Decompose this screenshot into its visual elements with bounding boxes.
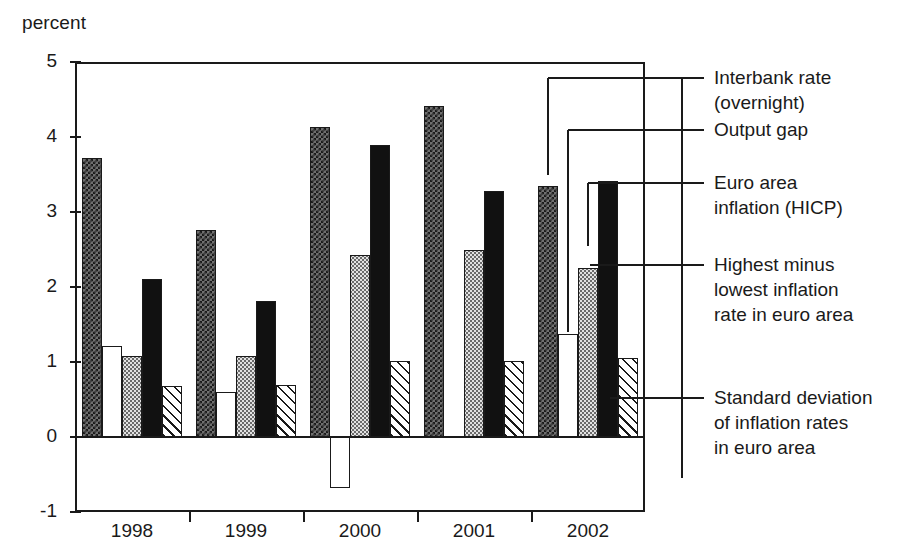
legend-item-3-line-1: lowest inflation	[714, 277, 910, 302]
bar-2002-series-2	[578, 268, 598, 437]
bar-2002-series-1	[558, 334, 578, 437]
bar-2000-series-0	[310, 127, 330, 438]
bar-2001-series-2	[464, 250, 484, 437]
y-axis-tick-label: 0	[13, 425, 57, 447]
legend-item-0-line-1: (overnight)	[714, 90, 910, 115]
leader-stub-0	[682, 77, 704, 79]
y-axis-unit-label: percent	[22, 12, 86, 34]
bar-1999-series-2	[236, 356, 256, 437]
leader-horizontal-1	[568, 129, 682, 131]
bar-1998-series-3	[142, 279, 162, 437]
bar-1998-series-0	[82, 158, 102, 437]
leader-riser-1	[567, 130, 569, 332]
bar-1998-series-1	[102, 346, 122, 437]
bars-layer	[75, 62, 645, 512]
x-axis-label-1998: 1998	[72, 520, 192, 542]
bar-1999-series-0	[196, 230, 216, 437]
y-axis-tick-label: 1	[13, 350, 57, 372]
bar-1999-series-1	[216, 392, 236, 437]
legend-item-0-line-0: Interbank rate	[714, 65, 910, 90]
bar-2002-series-0	[538, 186, 558, 437]
bar-2000-series-3	[370, 145, 390, 438]
bar-2000-series-2	[350, 255, 370, 437]
bar-1999-series-3	[256, 301, 276, 438]
y-axis-tick-label: 4	[13, 125, 57, 147]
leader-horizontal-4	[610, 397, 682, 399]
x-axis-label-2001: 2001	[414, 520, 534, 542]
leader-horizontal-2	[588, 182, 682, 184]
bar-2001-series-3	[484, 191, 504, 437]
x-axis-label-1999: 1999	[186, 520, 306, 542]
leader-stub-4	[682, 397, 704, 399]
legend-item-2-line-1: inflation (HICP)	[714, 195, 910, 220]
bar-1998-series-2	[122, 356, 142, 437]
legend-item-4-line-1: of inflation rates	[714, 410, 910, 435]
leader-riser-2	[587, 183, 589, 246]
y-axis-tick-label: 2	[13, 275, 57, 297]
leader-horizontal-0	[548, 77, 682, 79]
bar-1998-series-4	[162, 386, 182, 437]
chart-root: percent 543210-1 19981999200020012002 In…	[0, 0, 910, 556]
leader-stub-3	[682, 264, 704, 266]
legend-item-1: Output gap	[714, 117, 910, 142]
y-axis-tick-label: 5	[13, 50, 57, 72]
legend-item-3: Highest minuslowest inflationrate in eur…	[714, 252, 910, 327]
legend-item-0: Interbank rate(overnight)	[714, 65, 910, 115]
y-axis-tick-label: -1	[13, 500, 57, 522]
x-axis-label-2002: 2002	[528, 520, 648, 542]
leader-stub-1	[682, 129, 704, 131]
bar-2001-series-4	[504, 361, 524, 438]
bar-2001-series-0	[424, 106, 444, 437]
legend-item-4: Standard deviationof inflation ratesin e…	[714, 385, 910, 460]
legend-item-4-line-0: Standard deviation	[714, 385, 910, 410]
legend-item-4-line-2: in euro area	[714, 435, 910, 460]
bar-2000-series-4	[390, 361, 410, 438]
legend-item-3-line-0: Highest minus	[714, 252, 910, 277]
leader-riser-0	[547, 78, 549, 175]
leader-stub-2	[682, 182, 704, 184]
x-axis-label-2000: 2000	[300, 520, 420, 542]
bar-2000-series-1	[330, 437, 350, 488]
legend-item-2-line-0: Euro area	[714, 170, 910, 195]
legend-item-3-line-2: rate in euro area	[714, 302, 910, 327]
legend-item-2: Euro areainflation (HICP)	[714, 170, 910, 220]
legend-item-1-line-0: Output gap	[714, 117, 910, 142]
leader-horizontal-3	[590, 264, 682, 266]
bar-1999-series-4	[276, 385, 296, 437]
leader-collector-spine	[681, 78, 683, 478]
y-axis-tick-label: 3	[13, 200, 57, 222]
